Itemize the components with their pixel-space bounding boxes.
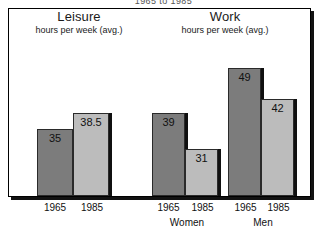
bar-work-women-1985: 31 [185, 149, 218, 196]
bar-value-work-women-1985: 31 [186, 153, 217, 164]
bar-value-leisure-1985: 38.5 [74, 117, 108, 128]
year-label-work-men-1985: 1985 [256, 203, 301, 213]
chart-caption: 1965 to 1985 [0, 0, 327, 6]
bar-leisure-1965: 35 [37, 129, 73, 196]
panel-subtitle-leisure: hours per week (avg.) [14, 26, 144, 35]
group-label-women: Women [152, 218, 222, 228]
panel-heading-leisure: Leisure hours per week (avg.) [14, 10, 144, 35]
bar-chart-figure: 1965 to 1985 Leisure hours per week (avg… [0, 0, 327, 235]
bar-value-leisure-1965: 35 [38, 133, 72, 144]
bar-work-women-1965: 39 [152, 113, 185, 196]
panel-title-work: Work [150, 10, 300, 24]
group-label-men: Men [228, 218, 298, 228]
bar-value-work-men-1965: 49 [229, 72, 260, 83]
bar-work-men-1985: 42 [261, 99, 294, 196]
bar-value-work-women-1965: 39 [153, 117, 184, 128]
year-label-work-women-1985: 1985 [180, 203, 225, 213]
year-label-leisure-1985: 1985 [69, 203, 115, 213]
panel-heading-work: Work hours per week (avg.) [150, 10, 300, 35]
bar-work-men-1965: 49 [228, 68, 261, 196]
chart-caption-strip: 1965 to 1985 [0, 0, 327, 7]
bar-leisure-1985: 38.5 [73, 113, 109, 196]
bar-value-work-men-1985: 42 [262, 103, 293, 114]
panel-subtitle-work: hours per week (avg.) [150, 26, 300, 35]
panel-title-leisure: Leisure [14, 10, 144, 24]
